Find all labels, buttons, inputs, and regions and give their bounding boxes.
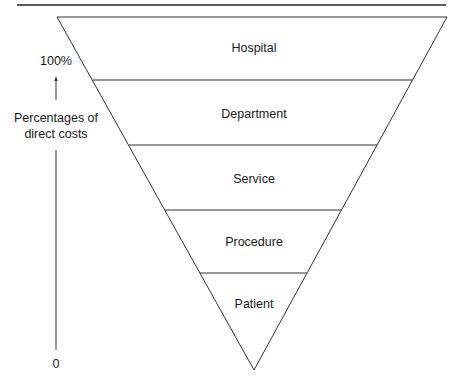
axis-top-label: 100% [40,54,72,68]
axis-title-line2: direct costs [0,126,112,142]
axis-arrow-icon [54,76,57,81]
level-patient: Patient [235,297,274,311]
axis-title-line1: Percentages of [0,110,112,126]
level-department: Department [221,107,286,121]
level-service: Service [233,172,275,186]
axis-bottom-label: 0 [53,357,60,371]
level-hospital: Hospital [231,41,276,55]
level-procedure: Procedure [225,235,283,249]
axis-title: Percentages of direct costs [0,110,112,142]
pyramid-outline [57,17,447,370]
